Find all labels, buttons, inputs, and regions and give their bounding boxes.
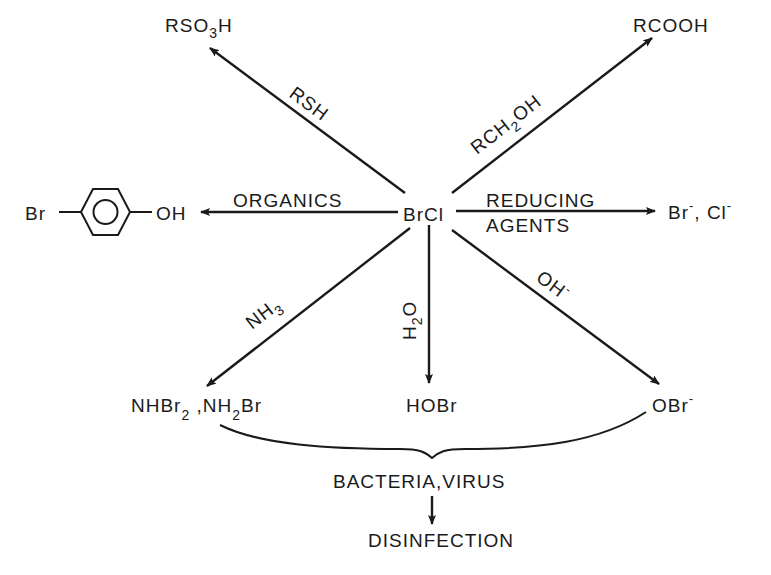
svg-text:Br: Br: [25, 203, 46, 224]
arrow-hydroxide: [452, 230, 659, 384]
reagent-reducing: REDUCING: [486, 190, 595, 211]
reagent-nh3: NH3: [242, 293, 288, 337]
outcome-disinfection: DISINFECTION: [368, 530, 514, 551]
product-bromide-chloride: Br-, Cl-: [668, 198, 732, 223]
product-rcooh: RCOOH: [633, 15, 709, 36]
brcl-reaction-diagram: BrCl RSO3H RSH RCOOH RCH2OH ORGANICS Br …: [0, 0, 771, 575]
grouping-brace: [220, 412, 646, 458]
arrow-rch2oh: [452, 38, 652, 193]
reagent-h2o: H2O: [399, 301, 425, 340]
target-bacteria-virus: BACTERIA,VIRUS: [333, 471, 505, 492]
product-hypobromite: OBr-: [652, 391, 694, 416]
center-compound-brcl: BrCl: [403, 204, 444, 225]
reagent-hydroxide: OH-: [533, 264, 576, 305]
reagent-agents: AGENTS: [486, 215, 570, 236]
product-hobr: HOBr: [406, 395, 458, 416]
product-rso3h: RSO3H: [165, 15, 233, 41]
svg-text:OH: OH: [156, 203, 187, 224]
benzene-ring-icon: [81, 189, 130, 235]
arrow-nh3: [207, 228, 410, 386]
product-bromophenol: Br OH: [25, 189, 187, 235]
product-bromamines: NHBr2 ,NH2Br: [131, 395, 262, 423]
reagent-organics: ORGANICS: [233, 190, 342, 211]
arrow-rsh: [210, 48, 405, 193]
reagent-rsh: RSH: [286, 82, 333, 125]
